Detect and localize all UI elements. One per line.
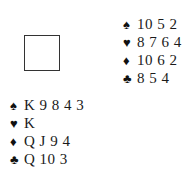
club-icon: ♣ [123,70,137,88]
west-diamonds-row: ♦Q J 9 4 [10,132,84,150]
diamond-icon: ♦ [123,52,137,70]
north-diamonds-cards: 10 6 2 [137,52,178,68]
west-spades-cards: K 9 8 4 3 [24,97,84,113]
spade-icon: ♠ [10,97,24,115]
heart-icon: ♥ [10,115,24,133]
diamond-icon: ♦ [10,133,24,151]
north-clubs-row: ♣8 5 4 [123,69,182,87]
spade-icon: ♠ [123,16,137,34]
west-spades-row: ♠K 9 8 4 3 [10,96,84,114]
west-hearts-row: ♥K [10,114,84,132]
west-hand: ♠K 9 8 4 3 ♥K ♦Q J 9 4 ♣Q 10 3 [10,96,84,168]
heart-icon: ♥ [123,34,137,52]
club-icon: ♣ [10,151,24,169]
north-spades-cards: 10 5 2 [137,16,178,32]
west-clubs-cards: Q 10 3 [24,151,68,167]
north-clubs-cards: 8 5 4 [137,70,170,86]
north-hearts-cards: 8 7 6 4 [137,34,182,50]
west-diamonds-cards: Q J 9 4 [24,133,70,149]
west-hearts-cards: K [24,115,35,131]
north-spades-row: ♠10 5 2 [123,15,182,33]
north-hand: ♠10 5 2 ♥8 7 6 4 ♦10 6 2 ♣8 5 4 [123,15,182,87]
north-diamonds-row: ♦10 6 2 [123,51,182,69]
west-clubs-row: ♣Q 10 3 [10,150,84,168]
north-hearts-row: ♥8 7 6 4 [123,33,182,51]
bridge-table-box [24,35,60,71]
